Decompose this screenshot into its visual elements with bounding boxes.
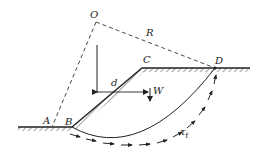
- label-d: d: [111, 78, 117, 88]
- label-B: B: [65, 117, 72, 127]
- label-C: C: [143, 55, 151, 65]
- label-D: D: [215, 56, 223, 66]
- label-O: O: [90, 10, 98, 20]
- label-W: W: [153, 86, 163, 96]
- point-D-marker: [213, 66, 216, 69]
- slope-diagram: O R C D d W A B τf: [0, 0, 262, 158]
- radius-line-OA: [52, 22, 96, 127]
- diagram-svg: [0, 0, 262, 158]
- tau-subscript: f: [186, 132, 189, 140]
- label-tau-f: τf: [180, 127, 188, 140]
- slip-surface-arc: [72, 68, 215, 138]
- label-A: A: [43, 116, 50, 126]
- label-R: R: [146, 28, 154, 38]
- radius-line-OD: [96, 22, 215, 68]
